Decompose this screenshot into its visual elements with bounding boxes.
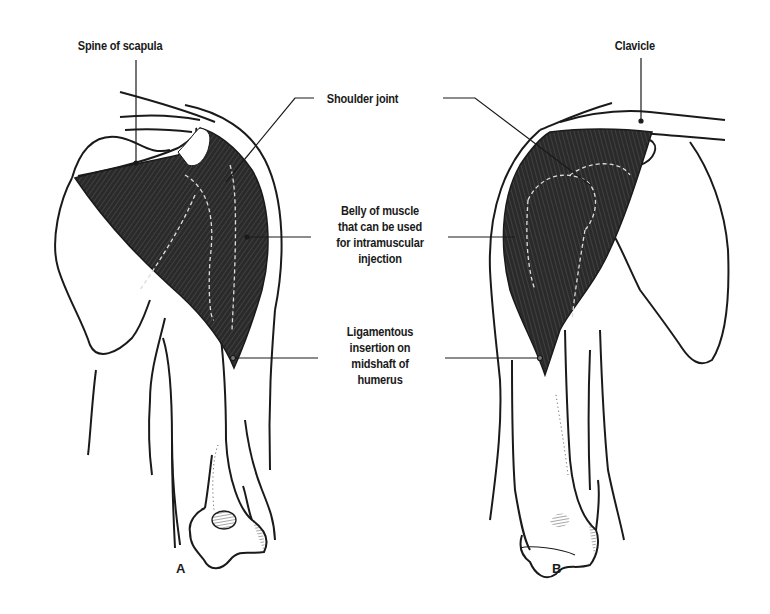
label-ligamentous-insertion: Ligamentous insertion on midshaft of hum…: [318, 324, 441, 388]
view-label-b: B: [552, 561, 561, 576]
olecranon-a: [212, 511, 236, 529]
deltoid-muscle-b: [503, 129, 652, 375]
insertion-line-4: humerus: [318, 372, 441, 388]
belly-line-1: Belly of muscle: [318, 203, 441, 219]
insertion-line-3: midshaft of: [318, 356, 441, 372]
label-shoulder-joint: Shoulder joint: [327, 91, 398, 107]
belly-line-2: that can be used: [318, 219, 441, 235]
view-label-a: A: [176, 561, 185, 576]
label-clavicle: Clavicle: [615, 38, 655, 54]
label-spine-of-scapula: Spine of scapula: [78, 38, 163, 54]
insertion-line-1: Ligamentous: [318, 324, 441, 340]
belly-line-3: for intramuscular: [318, 235, 441, 251]
belly-line-4: injection: [318, 251, 441, 267]
deltoid-diagram: Spine of scapula Clavicle Shoulder joint…: [0, 0, 770, 614]
trochlea-b: [550, 513, 570, 527]
humerus-b: [512, 360, 530, 550]
deltoid-muscle-a: [75, 128, 268, 368]
label-belly-of-muscle: Belly of muscle that can be used for int…: [318, 203, 441, 267]
insertion-line-2: insertion on: [318, 340, 441, 356]
